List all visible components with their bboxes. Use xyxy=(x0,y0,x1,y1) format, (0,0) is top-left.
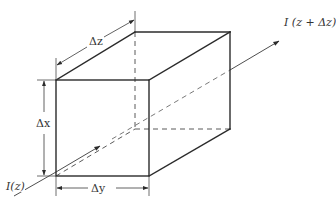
current-arrow xyxy=(14,41,279,196)
label-dy: Δy xyxy=(91,183,105,194)
label-dx: Δx xyxy=(36,118,50,129)
cube-edges xyxy=(56,32,230,176)
label-current-in: I(z) xyxy=(6,181,25,192)
label-current-out: I (z + Δz) xyxy=(284,17,336,28)
label-dz: Δz xyxy=(89,36,103,47)
hidden-edges xyxy=(56,32,230,176)
